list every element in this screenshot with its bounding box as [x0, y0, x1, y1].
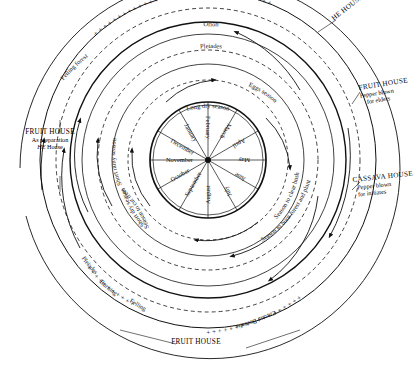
- star-label-orion-top: Orion: [203, 20, 219, 27]
- month-label: August: [204, 185, 211, 204]
- season-label-short-rainy: Short rainy season: [109, 136, 123, 187]
- callout-line-2-rest: House: [45, 143, 62, 150]
- arrow-outer-left2: [62, 150, 80, 248]
- month-label: May: [237, 157, 250, 164]
- svg-text:+ + + + + + + + + + + + + + +: + + + + + + + + + + + + + + + + + + + + …: [92, 0, 273, 38]
- callout-fruit-house-left: FRUIT HOUSE As preparation HE House: [2, 128, 98, 150]
- ring-label-burn-plant: Season to burn forest and plant: [259, 178, 312, 242]
- arrow-cut-trees: [97, 140, 112, 206]
- month-label: February: [205, 116, 212, 140]
- ring-label-clear-bush: Season to clear bush: [272, 171, 300, 220]
- activity-label-felling-top: Felling forest: [59, 52, 89, 81]
- month-label: April: [232, 137, 247, 150]
- month-label: October: [169, 166, 191, 183]
- season-label-eggs: Eggs season: [248, 81, 280, 104]
- month-label: June: [233, 171, 247, 183]
- arrow-short-dry-in: [196, 222, 258, 241]
- burning-band-top: + + + + + + + + + + + + + + + + + + + + …: [92, 0, 273, 38]
- wheel-hub: [205, 157, 211, 163]
- arrow-short-rainy: [132, 150, 150, 206]
- diagram-canvas: + + + + + + + + + + + + + + + + + + + + …: [0, 0, 418, 370]
- star-label-pleiades-top: Pleiades: [200, 42, 223, 50]
- callout-line-1: As preparation: [2, 136, 98, 143]
- ring-label-cut-trees: Season to cut trees: [118, 187, 150, 230]
- callout-line-2: HE House: [2, 143, 98, 150]
- callout-title: FRUIT HOUSE: [2, 128, 98, 136]
- arrow-outer-topright: [236, 32, 300, 90]
- month-label: July: [221, 184, 233, 197]
- callout-fruit-house-bottom: FRUIT HOUSE: [166, 338, 226, 346]
- month-label: January: [183, 122, 199, 143]
- activity-label-burning-bottom: Burning: [99, 278, 120, 297]
- month-label: November: [166, 156, 194, 163]
- arrow-eggs: [166, 80, 214, 102]
- arrow-long-dry: [266, 118, 290, 168]
- star-label-corona-borealis: Corona Borealis: [235, 309, 278, 331]
